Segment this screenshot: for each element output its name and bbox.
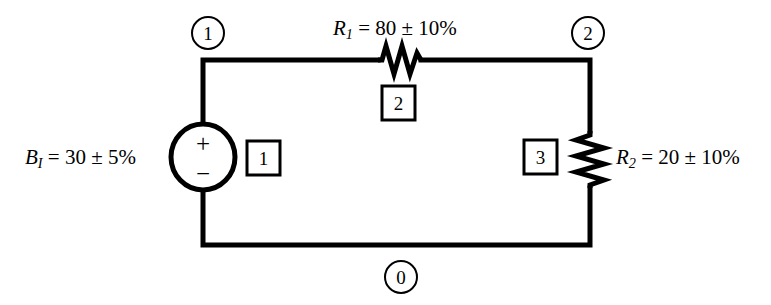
resistor-r1-symbol [378,46,421,74]
resistor-r1-symbol: R [333,16,346,40]
wire-top-left [203,60,378,126]
battery-value-label: BI = 30 ± 5% [25,147,136,170]
resistor-r2-symbol-subscript: 2 [629,155,636,171]
battery-symbol-subscript: I [38,155,43,171]
resistor-r2-value-label: R2 = 20 ± 10% [616,147,740,170]
element-number-1: 1 [247,149,280,168]
wire-top-right [421,60,590,131]
plus-sign-icon: + [190,131,216,156]
resistor-r2-symbol [576,131,604,188]
wire-bottom [203,188,590,245]
resistor-r2-value-text: = 20 ± 10% [641,145,740,169]
node-label-0: 0 [386,268,416,287]
resistor-r2-symbol: R [616,145,629,169]
resistor-r1-symbol-subscript: 1 [346,26,353,42]
battery-value-text: = 30 ± 5% [48,145,136,169]
element-number-3: 3 [524,148,557,167]
node-label-1: 1 [193,24,223,43]
battery-symbol: B [25,145,38,169]
element-number-2: 2 [382,94,415,113]
resistor-r1-value-text: = 80 ± 10% [358,16,457,40]
node-label-2: 2 [573,24,603,43]
minus-sign-icon: − [190,161,216,186]
resistor-r1-value-label: R1 = 80 ± 10% [333,18,457,41]
